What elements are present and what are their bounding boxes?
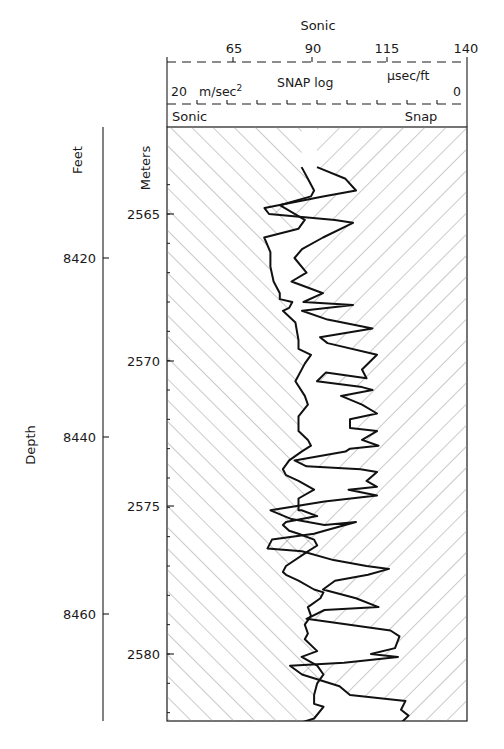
meter-tick-2565: 2565 (127, 207, 160, 222)
feet-tick-8420: 8420 (63, 251, 96, 266)
track-label-sonic: Sonic (172, 109, 207, 124)
snap-axis-units-exp: 2 (236, 83, 242, 93)
meters-axis-label: Meters (138, 146, 153, 191)
snap-axis-right-value: 0 (453, 84, 461, 99)
track-label-snap: Snap (405, 109, 438, 124)
snap-sonic-log-chart: Sonic 65 90 115 140 µsec/ft 20 m/sec2 SN… (0, 0, 504, 749)
top-axis-tick-65: 65 (226, 41, 243, 56)
snap-axis-left-value: 20 (171, 84, 187, 99)
top-axis-tick-140: 140 (454, 41, 479, 56)
meter-tick-2580: 2580 (127, 647, 160, 662)
feet-ticks (103, 258, 109, 614)
feet-tick-8460: 8460 (63, 607, 96, 622)
top-axis-tick-90: 90 (305, 41, 322, 56)
depth-axis-label: Depth (23, 425, 38, 465)
snap-axis-units-text: m/sec (199, 84, 237, 99)
snap-axis-title: SNAP log (277, 75, 333, 90)
top-axis-units: µsec/ft (387, 68, 429, 83)
meter-tick-2575: 2575 (127, 499, 160, 514)
top-axis-tick-115: 115 (375, 41, 400, 56)
meter-tick-2570: 2570 (127, 354, 160, 369)
top-axis-title: Sonic (300, 18, 335, 33)
top-dashed-axis (167, 57, 467, 67)
feet-tick-8440: 8440 (63, 430, 96, 445)
snap-axis-units: m/sec2 (199, 83, 242, 99)
feet-axis-label: Feet (70, 146, 85, 174)
